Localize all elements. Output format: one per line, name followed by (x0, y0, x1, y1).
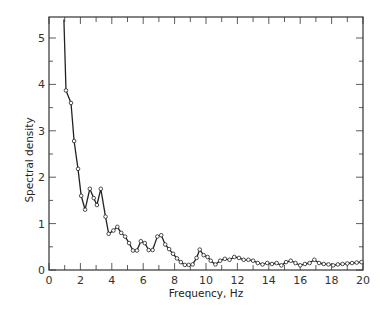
data-point-marker (280, 264, 284, 268)
data-point-marker (331, 264, 335, 268)
data-point-marker (355, 261, 359, 265)
data-point-marker (322, 262, 326, 266)
data-point-marker (294, 261, 298, 265)
data-point-marker (237, 256, 241, 260)
data-point-marker (206, 255, 210, 259)
data-point-marker (256, 261, 260, 265)
data-point-marker (171, 252, 175, 256)
data-point-marker (119, 231, 123, 235)
y-tick-label: 5 (38, 32, 45, 45)
data-point-marker (123, 235, 127, 239)
data-point-marker (175, 257, 179, 261)
data-point-marker (270, 262, 274, 266)
data-point-marker (228, 258, 232, 262)
data-point-marker (284, 260, 288, 264)
data-point-marker (232, 255, 236, 259)
data-point-marker (327, 263, 331, 267)
data-point-marker (247, 258, 251, 262)
data-point-marker (147, 248, 151, 252)
data-point-marker (76, 167, 80, 171)
plot-border (49, 17, 363, 270)
data-point-marker (191, 263, 195, 267)
data-point-marker (198, 248, 202, 252)
x-tick-label: 6 (140, 274, 147, 287)
data-point-marker (131, 249, 135, 253)
x-tick-label: 8 (171, 274, 178, 287)
x-tick-label: 2 (77, 274, 84, 287)
data-point-marker (167, 247, 171, 251)
data-point-marker (159, 233, 163, 237)
data-point-marker (195, 256, 199, 260)
data-point-marker (350, 261, 354, 265)
data-point-marker (92, 196, 96, 200)
data-point-marker (64, 89, 68, 93)
y-tick-label: 2 (38, 171, 45, 184)
data-point-marker (112, 229, 116, 233)
x-axis-title: Frequency, Hz (169, 287, 244, 299)
data-point-marker (242, 258, 246, 262)
data-point-marker (265, 261, 269, 265)
data-point-marker (104, 215, 108, 219)
spectral-density-chart: 02468101214161820 012345 Frequency, Hz S… (0, 0, 385, 316)
x-tick-label: 16 (293, 274, 307, 287)
data-point-marker (223, 257, 227, 261)
data-point-marker (107, 232, 111, 236)
data-point-marker (308, 261, 312, 265)
plot-frame (49, 17, 363, 270)
data-point-marker (298, 264, 302, 268)
data-point-marker (72, 139, 76, 143)
data-point-marker (79, 194, 83, 198)
x-tick-label: 14 (262, 274, 276, 287)
data-point-marker (202, 253, 206, 257)
x-tick-label: 18 (325, 274, 339, 287)
x-tick-label: 12 (230, 274, 244, 287)
data-point-marker (143, 241, 147, 245)
data-point-marker (218, 259, 222, 263)
x-tick-label: 4 (108, 274, 115, 287)
data-point-marker (88, 187, 92, 191)
data-point-marker (183, 263, 187, 267)
data-point-marker (187, 263, 191, 267)
data-point-marker (83, 208, 87, 212)
data-point-marker (156, 235, 160, 239)
data-point-marker (179, 260, 183, 264)
data-point-marker (313, 258, 317, 262)
data-point-marker (275, 261, 279, 265)
data-point-marker (261, 263, 265, 267)
data-point-marker (360, 260, 364, 264)
data-point-marker (151, 248, 155, 252)
axis-ticks (49, 17, 363, 270)
data-point-marker (317, 261, 321, 265)
x-tick-labels: 02468101214161820 (46, 274, 371, 287)
data-point-marker (341, 262, 345, 266)
x-tick-label: 10 (199, 274, 213, 287)
x-tick-label: 0 (46, 274, 53, 287)
data-point-marker (95, 203, 99, 207)
y-tick-label: 3 (38, 125, 45, 138)
data-point-marker (289, 259, 293, 263)
y-tick-label: 4 (38, 78, 45, 91)
data-point-marker (115, 225, 119, 229)
y-axis-title: Spectral density (23, 117, 35, 202)
data-point-marker (209, 259, 213, 263)
x-tick-label: 20 (356, 274, 370, 287)
data-point-marker (69, 101, 73, 105)
y-tick-label: 1 (38, 218, 45, 231)
y-tick-labels: 012345 (38, 32, 45, 277)
data-point-marker (303, 262, 307, 266)
data-point-marker (99, 187, 103, 191)
series-line (64, 19, 362, 265)
data-point-marker (127, 241, 131, 245)
data-point-marker (214, 263, 218, 267)
data-point-marker (163, 243, 167, 247)
data-point-marker (135, 249, 139, 253)
y-tick-label: 0 (38, 264, 45, 277)
data-point-marker (346, 262, 350, 266)
data-series (64, 19, 363, 267)
data-point-marker (139, 239, 143, 243)
data-point-marker (336, 263, 340, 267)
data-point-marker (251, 259, 255, 263)
